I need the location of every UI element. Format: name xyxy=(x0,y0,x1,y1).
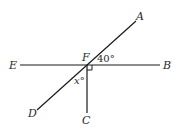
geometry-diagram: A B C D E F 40° x° xyxy=(0,0,182,133)
label-C: C xyxy=(82,114,91,127)
angle-x-label: x° xyxy=(74,75,85,86)
angle-40-label: 40° xyxy=(97,53,115,64)
label-F: F xyxy=(81,51,90,64)
right-angle-marker xyxy=(87,65,92,70)
label-E: E xyxy=(8,59,17,72)
label-B: B xyxy=(162,59,171,72)
label-D: D xyxy=(27,107,37,120)
label-A: A xyxy=(135,10,144,23)
